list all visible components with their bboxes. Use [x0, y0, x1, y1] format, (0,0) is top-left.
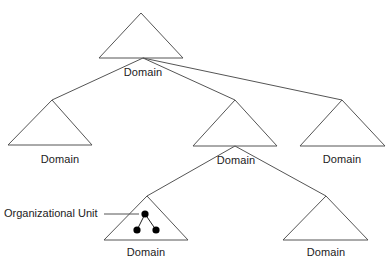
ou-node-right-icon [152, 226, 159, 233]
domain-label-middle: Domain [217, 154, 256, 166]
domain-label-left: Domain [41, 153, 80, 165]
ou-node-top-icon [141, 210, 148, 217]
domain-triangle-grandchild-left [104, 196, 188, 240]
edge-root-to-left [52, 58, 143, 100]
edge-root-to-middle [143, 58, 235, 100]
domain-triangle-grandchild-right [283, 196, 368, 240]
domain-tree-diagram [0, 0, 391, 264]
edge-root-to-right [143, 58, 342, 100]
organizational-unit-label: Organizational Unit [4, 207, 98, 219]
domain-triangle-root [99, 13, 183, 58]
domain-label-grandchild-left: Domain [127, 246, 166, 258]
ou-node-left-icon [133, 226, 140, 233]
domain-label-right: Domain [323, 153, 362, 165]
domain-label-root: Domain [124, 66, 163, 78]
domain-triangle-right [300, 100, 385, 146]
domain-triangle-middle [193, 100, 277, 146]
domain-triangle-left [8, 100, 92, 145]
domain-label-grandchild-right: Domain [307, 246, 346, 258]
